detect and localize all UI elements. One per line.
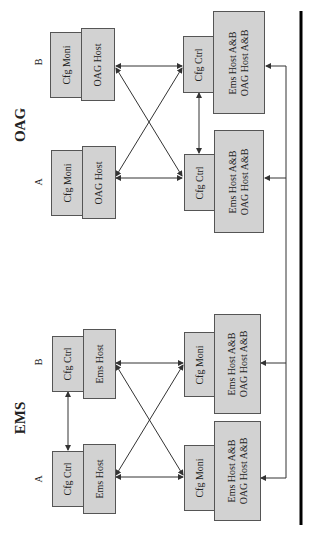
oag-b-label: B (33, 59, 44, 66)
r2-cfg-ctrl: Cfg Ctrl (184, 154, 216, 211)
ems-a-cfg-ctrl: Cfg Ctrl (52, 451, 84, 507)
r2-host: Ems Host A&BOAG Host A&B (214, 130, 264, 233)
r1-cfg-ctrl: Cfg Ctrl (183, 36, 215, 93)
oag-a-host: OAG Host (82, 146, 116, 219)
r4-cfg-moni: Cfg Moni (184, 445, 216, 511)
oag-a-label: A (33, 178, 44, 185)
oag-a-cfg-moni: Cfg Moni (51, 150, 84, 216)
ems-b-cfg-ctrl: Cfg Ctrl (52, 336, 84, 392)
group-label-ems: EMS (12, 402, 29, 435)
ems-b-label: B (33, 359, 44, 366)
r3-cfg-moni: Cfg Moni (184, 332, 216, 397)
oag-b-cfg-moni: Cfg Moni (50, 32, 83, 98)
r4-host: Ems Host A&BOAG Host A&B (214, 421, 261, 521)
oag-b-host: OAG Host (81, 28, 115, 101)
group-label-oag: OAG (12, 108, 29, 142)
ems-b-host: Ems Host (83, 329, 116, 399)
r1-host: Ems Host A&BOAG Host A&B (213, 11, 265, 114)
ems-a-host: Ems Host (83, 444, 116, 514)
r3-host: Ems Host A&BOAG Host A&B (214, 314, 261, 414)
ems-a-label: A (33, 475, 44, 482)
